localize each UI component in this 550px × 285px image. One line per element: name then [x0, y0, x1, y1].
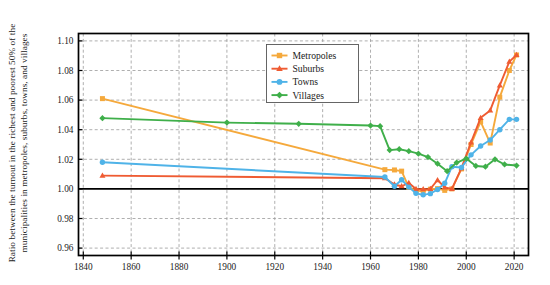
data-point-marker [468, 152, 473, 157]
data-point-marker [382, 174, 387, 179]
data-point-marker [382, 167, 387, 172]
x-tick-label: 1940 [313, 262, 332, 272]
data-point-marker [399, 169, 404, 174]
data-point-marker [415, 151, 421, 157]
y-tick-label: 1.08 [57, 66, 74, 76]
y-tick-label: 1.02 [57, 155, 74, 165]
chart-plot-area: 0.960.981.001.021.041.061.081.1018401860… [0, 0, 550, 285]
data-point-marker [435, 177, 441, 182]
data-point-marker [224, 119, 230, 125]
data-point-marker [488, 137, 493, 142]
y-tick-label: 0.98 [57, 214, 74, 224]
x-tick-label: 1960 [361, 262, 380, 272]
x-tick-label: 1920 [265, 262, 284, 272]
legend-label-towns: Towns [293, 76, 319, 87]
y-tick-label: 1.00 [57, 184, 74, 194]
x-tick-label: 2020 [505, 262, 524, 272]
legend-label-villages: Villages [293, 90, 325, 101]
data-point-marker [442, 181, 447, 186]
data-point-marker [377, 123, 383, 129]
y-tick-label: 1.06 [57, 95, 74, 105]
data-point-marker [420, 192, 425, 197]
x-tick-label: 1900 [218, 262, 237, 272]
data-point-marker [392, 167, 397, 172]
y-tick-label: 1.04 [57, 125, 74, 135]
data-point-marker [387, 147, 393, 153]
data-point-marker [497, 82, 503, 87]
y-tick-label: 1.10 [57, 36, 74, 46]
data-point-marker [497, 127, 502, 132]
data-point-marker [459, 165, 464, 170]
data-point-marker [514, 117, 519, 122]
data-point-marker [392, 184, 397, 189]
x-tick-label: 1880 [170, 262, 189, 272]
data-point-marker [277, 53, 282, 58]
data-point-marker [406, 184, 411, 189]
legend-label-suburbs: Suburbs [293, 63, 325, 74]
x-tick-label: 1980 [409, 262, 428, 272]
x-tick-label: 1860 [122, 262, 141, 272]
data-point-marker [367, 122, 373, 128]
data-point-marker [399, 177, 404, 182]
data-point-marker [428, 191, 433, 196]
chart-figure: Ratio between the turnout in the richest… [0, 0, 550, 285]
data-point-marker [478, 143, 483, 148]
data-point-marker [296, 121, 302, 127]
data-point-marker [277, 79, 283, 85]
data-point-marker [99, 115, 105, 121]
x-tick-label: 2000 [457, 262, 476, 272]
data-point-marker [100, 160, 105, 165]
data-point-marker [396, 146, 402, 152]
data-point-marker [507, 68, 512, 73]
data-point-marker [435, 187, 440, 192]
data-point-marker [497, 95, 502, 100]
data-point-marker [100, 96, 105, 101]
legend-label-metropoles: Metropoles [293, 50, 337, 61]
data-point-marker [406, 148, 412, 154]
x-tick-label: 1840 [74, 262, 93, 272]
data-point-marker [507, 117, 512, 122]
data-point-marker [487, 107, 493, 112]
data-point-marker [413, 191, 418, 196]
y-tick-label: 0.96 [57, 243, 74, 253]
